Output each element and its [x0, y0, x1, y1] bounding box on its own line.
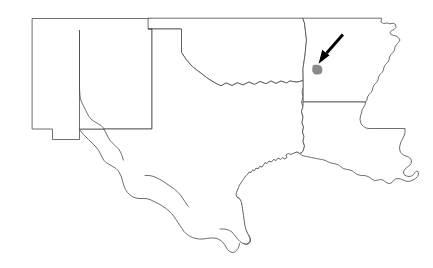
location-map-figure — [0, 0, 433, 268]
study-area-highlight — [313, 65, 322, 74]
map-canvas — [0, 0, 433, 268]
study-area-polygon — [313, 65, 322, 74]
